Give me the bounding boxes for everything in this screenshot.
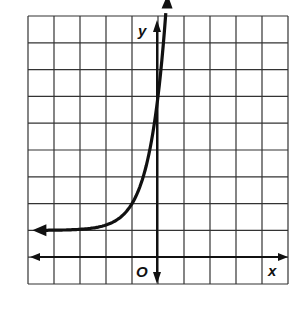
y-axis-label: y: [137, 22, 147, 39]
x-axis: [30, 253, 288, 261]
origin-label: O: [136, 263, 148, 280]
x-axis-label: x: [267, 262, 277, 279]
exponential-curve: [38, 13, 165, 230]
graph: y x O: [0, 0, 293, 318]
y-axis: [153, 20, 161, 284]
curve-arrow-left: [32, 224, 46, 236]
curve-arrow-top: [162, 0, 173, 8]
